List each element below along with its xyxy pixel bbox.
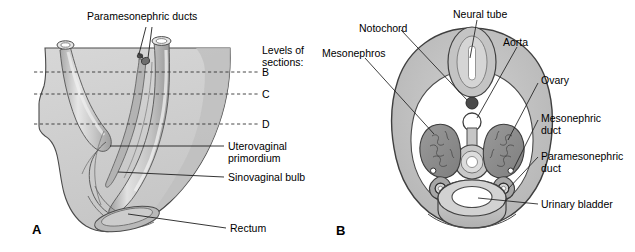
section-label-b: B — [262, 66, 269, 78]
figure-root: Paramesonephric ducts Levels of sections… — [0, 0, 635, 252]
urinary-bladder — [438, 180, 506, 228]
panel-a: Paramesonephric ducts Levels of sections… — [0, 0, 320, 252]
mesonephric-duct-left — [431, 168, 436, 173]
label-uterovaginal-primordium-line2: primordium — [228, 152, 281, 165]
neural-tube — [448, 27, 496, 97]
panel-b-illustration — [320, 0, 635, 252]
panel-b: Neural tube Notochord Aorta Mesonephros … — [320, 0, 635, 252]
label-uterovaginal-primordium-line1: Uterovaginal — [228, 140, 287, 153]
label-urinary-bladder: Urinary bladder — [541, 198, 613, 211]
label-paramesonephric-duct-line1: Paramesonephric — [541, 150, 623, 163]
label-paramesonephric-duct-line2: duct — [541, 162, 561, 175]
label-sinovaginal-bulb: Sinovaginal bulb — [228, 171, 305, 184]
section-label-c: C — [262, 88, 270, 100]
panel-letter-a: A — [32, 222, 41, 237]
label-rectum: Rectum — [230, 222, 266, 235]
section-label-d: D — [262, 118, 270, 130]
mesonephric-duct-right — [508, 168, 513, 173]
label-mesonephros: Mesonephros — [322, 47, 386, 60]
label-mesonephric-duct-line2: duct — [541, 124, 561, 137]
panel-letter-b: B — [336, 223, 345, 238]
panel-a-illustration — [0, 0, 320, 252]
label-neural-tube: Neural tube — [453, 8, 507, 21]
notochord — [466, 97, 478, 109]
label-paramesonephric-ducts: Paramesonephric ducts — [87, 10, 197, 23]
label-levels-of-sections-line1: Levels of — [262, 44, 304, 57]
label-notochord: Notochord — [359, 22, 407, 35]
label-aorta: Aorta — [503, 36, 528, 49]
bladder-lumen — [452, 187, 492, 208]
neural-canal — [469, 46, 476, 80]
label-mesonephric-duct-line1: Mesonephric — [541, 112, 601, 125]
label-ovary: Ovary — [541, 74, 569, 87]
